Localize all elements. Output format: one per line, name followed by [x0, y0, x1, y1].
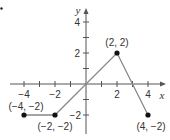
point-label: (−2, −2)	[37, 121, 72, 132]
y-tick-label: −2	[70, 110, 82, 121]
point-label: (−4, −2)	[8, 101, 43, 112]
x-arrow-icon	[160, 82, 166, 87]
y-arrow-icon	[84, 8, 89, 14]
point-label: (4, −2)	[136, 121, 165, 132]
data-point	[114, 50, 119, 55]
x-tick-label: 2	[114, 89, 120, 100]
stray-mark	[0, 7, 2, 9]
x-axis-label: x	[159, 89, 165, 101]
y-tick-label: 4	[74, 17, 80, 28]
y-axis-label: y	[75, 4, 81, 16]
y-tick-label: 2	[74, 48, 80, 59]
x-tick-label: −2	[49, 89, 61, 100]
data-point	[21, 112, 26, 117]
x-tick-label: 4	[145, 89, 151, 100]
x-tick-label: −4	[18, 89, 30, 100]
point-label: (2, 2)	[105, 37, 128, 48]
y-axis	[83, 8, 89, 134]
data-point	[145, 112, 150, 117]
chart: −4 −2 2 4 x 4 2 −2 y (−4, −2) (−2, −2) (…	[0, 0, 170, 140]
data-point	[52, 112, 57, 117]
